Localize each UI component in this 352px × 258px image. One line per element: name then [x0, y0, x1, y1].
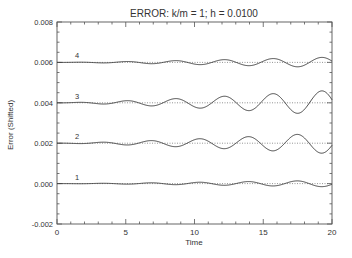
- curve-label-3: 3: [75, 92, 79, 101]
- plot-frame: [57, 22, 332, 224]
- chart-title: ERROR: k/m = 1; h = 0.0100: [130, 8, 258, 19]
- y-tick-label: 0.004: [34, 99, 53, 108]
- x-tick-label: 5: [124, 228, 129, 237]
- curve-label-4: 4: [75, 51, 79, 60]
- curve-labels: 1234: [75, 51, 79, 181]
- x-tick-label: 10: [190, 228, 199, 237]
- y-tick-label: -0.002: [32, 220, 53, 229]
- error-chart: ERROR: k/m = 1; h = 0.0100 05101520-0.00…: [0, 0, 352, 258]
- reference-lines: [57, 62, 332, 183]
- y-axis-label: Error (Shifted): [6, 100, 15, 151]
- y-tick-label: 0.006: [34, 58, 53, 67]
- x-tick-label: 0: [55, 228, 60, 237]
- curve-label-2: 2: [75, 132, 79, 141]
- curve-2: [57, 134, 332, 153]
- curve-3: [57, 91, 332, 113]
- x-axis-label: Time: [185, 238, 203, 247]
- y-tick-label: 0.002: [34, 139, 53, 148]
- y-tick-label: 0.000: [34, 180, 53, 189]
- x-tick-label: 20: [328, 228, 337, 237]
- data-curves: [57, 57, 332, 186]
- x-tick-label: 15: [259, 228, 268, 237]
- y-tick-label: 0.008: [34, 18, 53, 27]
- curve-label-1: 1: [75, 173, 79, 182]
